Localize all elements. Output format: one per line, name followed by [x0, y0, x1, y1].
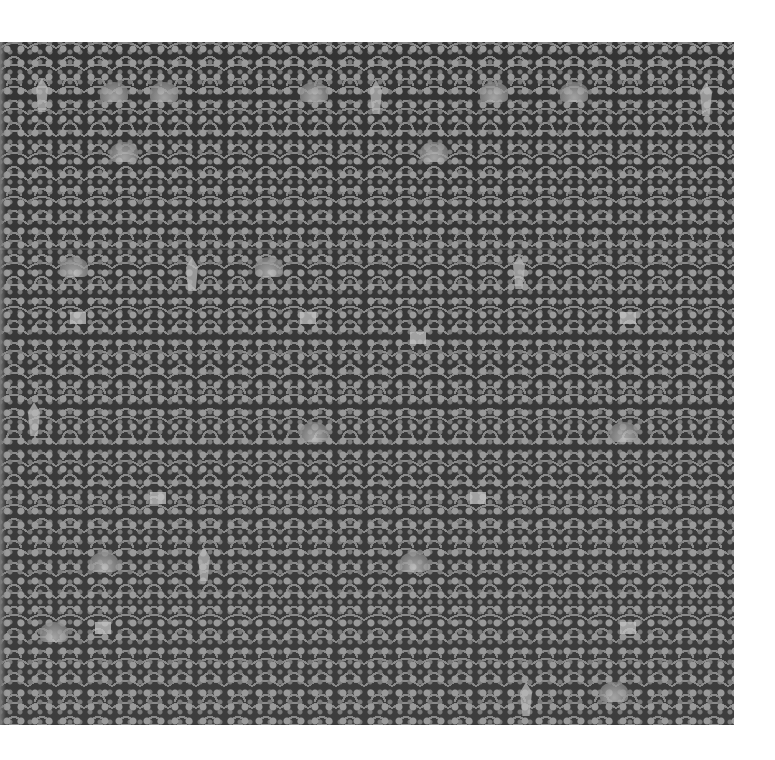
fan-motif — [110, 142, 138, 162]
fan-motif — [100, 82, 128, 102]
box-motif — [300, 312, 316, 324]
fan-motif — [560, 82, 588, 102]
fan-motif — [300, 422, 328, 442]
spire-motif — [36, 78, 48, 112]
box-motif — [620, 312, 636, 324]
box-motif — [95, 622, 111, 634]
fan-motif — [150, 82, 178, 102]
box-motif — [470, 492, 486, 504]
box-motif — [620, 622, 636, 634]
fan-motif — [400, 552, 428, 572]
fan-motif — [300, 82, 328, 102]
fan-motif — [480, 82, 508, 102]
fan-motif — [610, 422, 638, 442]
textile-left-edge — [0, 42, 6, 725]
box-motif — [150, 492, 166, 504]
spire-motif — [186, 257, 198, 291]
spire-motif — [700, 82, 712, 116]
spire-motif — [513, 255, 525, 289]
textile-photo — [0, 42, 734, 725]
spire-motif — [370, 80, 382, 114]
spire-motif — [28, 402, 40, 436]
fan-motif — [60, 257, 88, 277]
fan-motif — [90, 552, 118, 572]
fan-motif — [600, 682, 628, 702]
fan-motif — [255, 257, 283, 277]
fan-motif — [40, 622, 68, 642]
spire-motif — [198, 547, 210, 581]
spire-motif — [520, 682, 532, 716]
textile-seam — [0, 248, 734, 250]
box-motif — [410, 332, 426, 344]
fan-motif — [420, 142, 448, 162]
box-motif — [70, 312, 86, 324]
